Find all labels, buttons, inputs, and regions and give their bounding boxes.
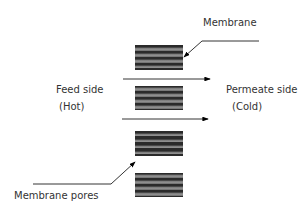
membrane-callout-arrow [184,41,259,57]
membrane-block-3 [135,131,183,156]
feed-side-label: Feed side [56,84,104,95]
permeate-temp-label: (Cold) [232,101,262,112]
membrane-label: Membrane [203,17,257,28]
membrane-pores-label: Membrane pores [14,190,99,201]
pores-callout-arrow [33,162,135,184]
membrane-block-4 [135,173,183,197]
feed-temp-label: (Hot) [59,101,84,112]
membrane-block-2 [135,86,183,110]
membrane-block-1 [135,45,183,70]
permeate-side-label: Permeate side [226,84,298,95]
